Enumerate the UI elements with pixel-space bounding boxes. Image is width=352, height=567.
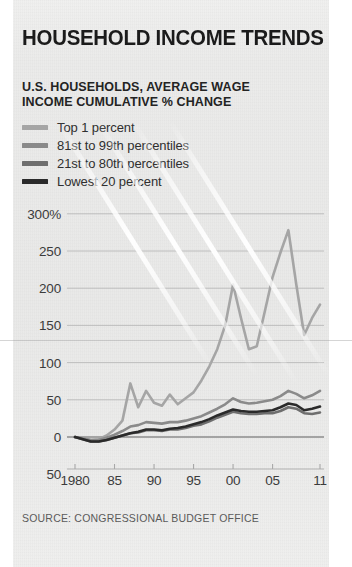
y-axis-tick-label: 150 <box>39 318 61 333</box>
source-credit: SOURCE: CONGRESSIONAL BUDGET OFFICE <box>22 512 259 524</box>
data-series <box>75 230 320 441</box>
y-axis-tick-label: 200 <box>39 281 61 296</box>
line-chart: 50050100150200250300% 1980859095000511 <box>0 0 352 567</box>
x-axis-tick-label: 11 <box>313 473 327 488</box>
y-axis-labels: 50050100150200250300% <box>27 207 61 482</box>
scanned-chart-page: HOUSEHOLD INCOME TRENDS U.S. HOUSEHOLDS,… <box>0 0 352 567</box>
y-axis-tick-label: 50 <box>46 467 61 482</box>
x-axis-tick-label: 85 <box>107 473 122 488</box>
y-axis-tick-label: 250 <box>39 244 61 259</box>
x-axis-tick-label: 90 <box>147 473 162 488</box>
x-axis-tick-label: 00 <box>226 473 241 488</box>
y-axis-tick-label: 300% <box>27 207 61 222</box>
y-axis-tick-label: 50 <box>46 393 61 408</box>
x-axis: 1980859095000511 <box>60 464 326 488</box>
x-axis-tick-label: 05 <box>265 473 280 488</box>
y-axis-tick-label: 100 <box>39 356 61 371</box>
x-axis-tick-label: 95 <box>186 473 201 488</box>
x-axis-tick-label: 1980 <box>60 473 89 488</box>
y-axis-tick-label: 0 <box>54 430 61 445</box>
